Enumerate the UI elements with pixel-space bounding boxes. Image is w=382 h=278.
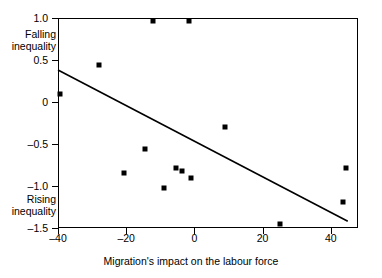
data-point-marker [122, 171, 127, 176]
y-tick-label: –1.0 [0, 181, 48, 192]
scatter-chart: 1.00.50–0.5–1.0–1.5 –40–2002040 Falling … [0, 0, 382, 278]
y-tick-label: –0.5 [0, 139, 48, 150]
x-tick-label: 40 [311, 232, 351, 244]
data-point-marker [187, 18, 192, 23]
data-point-marker [340, 199, 345, 204]
data-point-marker [344, 165, 349, 170]
plot-area [58, 18, 358, 228]
x-tick-label: –40 [38, 232, 78, 244]
falling-inequality-line1: Falling [0, 29, 56, 41]
data-point-marker [96, 63, 101, 68]
x-axis-title: Migration's impact on the labour force [0, 255, 382, 267]
x-tick-label: 20 [243, 232, 283, 244]
x-tick-label: –20 [106, 232, 146, 244]
x-tick-label: 0 [174, 232, 214, 244]
data-point-marker [142, 147, 147, 152]
rising-inequality-line1: Rising [0, 194, 56, 206]
data-point-marker [277, 221, 282, 226]
y-tick-label: 0.5 [0, 55, 48, 66]
data-point-marker [173, 165, 178, 170]
data-point-marker [161, 185, 166, 190]
rising-inequality-note: Rising inequality [0, 194, 56, 217]
rising-inequality-line2: inequality [0, 206, 56, 218]
data-point-marker [188, 175, 193, 180]
falling-inequality-note: Falling inequality [0, 29, 56, 52]
y-tick-label: 1.0 [0, 13, 48, 24]
y-tick-label: 0 [0, 97, 48, 108]
data-point-marker [180, 168, 185, 173]
data-point-marker [58, 92, 63, 97]
falling-inequality-line2: inequality [0, 41, 56, 53]
data-point-marker [223, 125, 228, 130]
data-point-marker [151, 19, 156, 24]
